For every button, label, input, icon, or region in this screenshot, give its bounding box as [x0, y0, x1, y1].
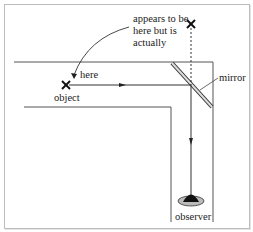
label-appears-line2: here but is — [133, 25, 177, 36]
label-mirror: mirror — [219, 72, 246, 83]
inner-wall — [24, 107, 171, 222]
arrow-down-icon — [189, 138, 193, 145]
label-here: here — [80, 69, 98, 80]
observer-eye-icon — [178, 195, 204, 207]
periscope-diagram — [0, 0, 253, 232]
label-appears-line1: appears to be — [133, 13, 188, 24]
arrow-head-icon — [71, 73, 77, 79]
label-object: object — [54, 92, 80, 103]
label-appears-line3: actually — [133, 37, 166, 48]
mirror-leader-line — [200, 78, 218, 90]
label-observer: observer — [175, 211, 211, 222]
arrow-right-icon — [119, 83, 126, 87]
curved-pointer-arrow — [74, 27, 129, 75]
x-mark-icon — [62, 81, 70, 89]
